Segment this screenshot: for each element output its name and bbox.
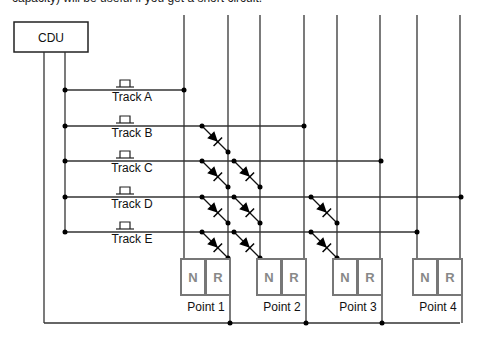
track-label: Track D	[111, 197, 153, 211]
point-label: Point 2	[263, 300, 301, 314]
diode-icon	[232, 159, 263, 190]
reverse-coil-label: R	[365, 270, 375, 285]
vertical-wires	[184, 15, 460, 258]
point-label: Point 3	[339, 300, 377, 314]
track-label: Track E	[112, 232, 153, 246]
cdu-label: CDU	[38, 31, 64, 45]
diode-icon	[309, 195, 340, 226]
pushbutton-switch-icon[interactable]	[116, 151, 134, 158]
diode-icon	[200, 195, 231, 226]
normal-coil-label: N	[188, 270, 197, 285]
reverse-coil-label: R	[213, 270, 223, 285]
diode-icon	[309, 230, 340, 261]
pushbutton-switch-icon[interactable]	[116, 116, 134, 123]
normal-coil-label: N	[340, 270, 349, 285]
pushbutton-switch-icon[interactable]	[116, 222, 134, 229]
diode-icon	[200, 159, 231, 190]
pushbutton-switch-icon[interactable]	[116, 80, 134, 87]
point-label: Point 4	[419, 300, 457, 314]
diode-icon	[200, 124, 231, 155]
wiring-diagram: CDU Track ATrack BTrack CTrack DTrack E …	[0, 0, 479, 339]
track-label: Track B	[112, 126, 153, 140]
diode-icon	[232, 230, 263, 261]
track-label: Track C	[111, 161, 153, 175]
track-row: Track C	[63, 151, 384, 190]
point-motor: NRPoint 1	[181, 259, 230, 314]
track-row: Track E	[63, 222, 420, 261]
point-motor: NRPoint 2	[257, 259, 306, 314]
cdu-box: CDU	[14, 22, 88, 52]
track-row: Track D	[63, 187, 464, 226]
track-row: Track A	[63, 80, 187, 104]
point-motor: NRPoint 4	[413, 259, 462, 314]
normal-coil-label: N	[420, 270, 429, 285]
reverse-coil-label: R	[445, 270, 455, 285]
point-label: Point 1	[187, 300, 225, 314]
diode-icon	[200, 230, 231, 261]
pushbutton-switch-icon[interactable]	[116, 187, 134, 194]
diode-icon	[232, 195, 263, 226]
normal-coil-label: N	[264, 270, 273, 285]
point-motor: NRPoint 3	[333, 259, 382, 314]
track-label: Track A	[112, 90, 152, 104]
reverse-coil-label: R	[289, 270, 299, 285]
